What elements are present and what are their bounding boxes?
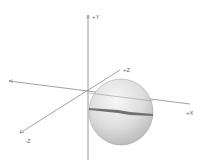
scene-canvas	[0, 0, 207, 165]
3d-scene: +Y +Z +X -Z	[0, 0, 207, 165]
y-positive-label: +Y	[92, 14, 100, 20]
y-axis	[87, 15, 90, 160]
x-positive-label: +X	[186, 110, 194, 116]
z-negative-label: -Z	[25, 138, 31, 144]
z-positive-label: +Z	[123, 67, 130, 73]
sphere	[89, 79, 153, 145]
